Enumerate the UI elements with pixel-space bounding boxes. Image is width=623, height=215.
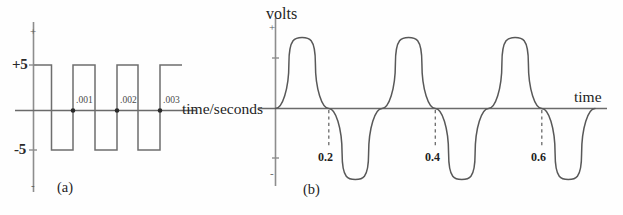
x-tick-label-0-2: 0.2 bbox=[318, 151, 333, 163]
figure-container: + - +5 -5 .001 .002 .003 time/seconds (a… bbox=[0, 0, 623, 215]
panel-sine-wave: volts + - 0.2 0.4 0.6 time (b) bbox=[255, 0, 623, 215]
y-axis-plus-sign-b: + bbox=[269, 22, 275, 33]
y-label-minus5: -5 bbox=[14, 142, 26, 157]
panel-caption-b: (b) bbox=[303, 182, 320, 197]
panel-caption-a: (a) bbox=[57, 180, 73, 195]
x-axis-label-b: time bbox=[574, 89, 602, 105]
x-tick-label-002: .002 bbox=[120, 96, 137, 106]
x-tick-label-0-4: 0.4 bbox=[425, 151, 440, 163]
x-tick-label-003: .003 bbox=[163, 96, 180, 106]
zero-crossing-dot-002 bbox=[115, 108, 120, 113]
y-label-plus5: +5 bbox=[12, 57, 28, 72]
x-axis-label-a: time/seconds bbox=[182, 101, 263, 117]
y-axis-minus-sign-b: - bbox=[270, 168, 274, 179]
y-axis-label-b: volts bbox=[266, 6, 297, 22]
panel-square-wave: + - +5 -5 .001 .002 .003 time/seconds (a… bbox=[0, 0, 280, 215]
x-tick-label-0-6: 0.6 bbox=[531, 151, 546, 163]
x-tick-label-001: .001 bbox=[76, 96, 93, 106]
zero-crossing-dot-003 bbox=[158, 108, 163, 113]
y-axis-minus-sign-a: - bbox=[31, 180, 35, 191]
y-axis-plus-sign-a: + bbox=[30, 26, 36, 37]
square-waveform-path bbox=[34, 65, 183, 150]
zero-crossing-dot-001 bbox=[71, 108, 76, 113]
